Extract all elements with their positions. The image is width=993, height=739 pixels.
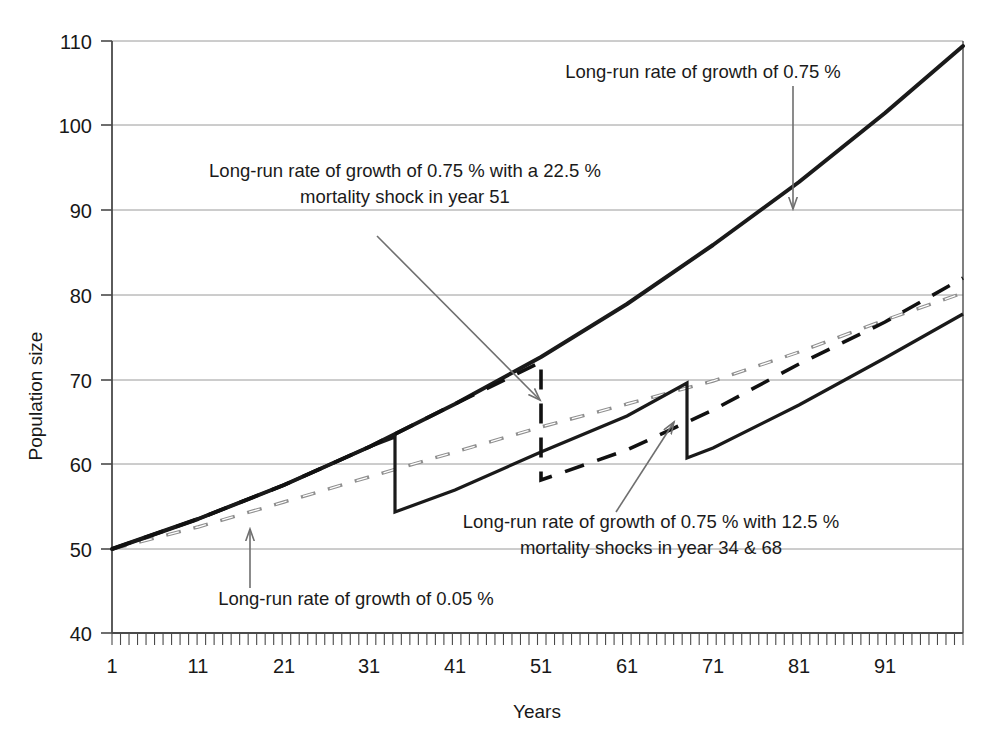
x-tick-label-51: 51 (530, 655, 552, 677)
y-tick-label-60: 60 (70, 454, 92, 476)
annotation-shock-34-68-line2: mortality shocks in year 34 & 68 (520, 537, 782, 558)
population-growth-line-chart: 110 100 90 80 70 60 50 40 1 11 21 31 41 … (0, 0, 993, 739)
x-axis-minor-ticks (112, 633, 963, 645)
y-tick-label-80: 80 (70, 285, 92, 307)
y-tick-label-100: 100 (59, 115, 92, 137)
annotation-shock-51-line1: Long-run rate of growth of 0.75 % with a… (209, 160, 601, 181)
x-tick-label-1: 1 (106, 655, 117, 677)
y-tick-label-50: 50 (70, 539, 92, 561)
x-tick-label-31: 31 (358, 655, 380, 677)
chart-figure: 110 100 90 80 70 60 50 40 1 11 21 31 41 … (0, 0, 993, 739)
x-tick-label-81: 81 (788, 655, 810, 677)
x-tick-label-71: 71 (702, 655, 724, 677)
x-tick-label-21: 21 (273, 655, 295, 677)
y-axis-title: Population size (25, 332, 46, 461)
x-axis-title: Years (513, 701, 561, 722)
y-axis-ticks (101, 41, 112, 633)
annotation-long-run-075: Long-run rate of growth of 0.75 % (565, 61, 841, 82)
annotation-long-run-005: Long-run rate of growth of 0.05 % (218, 588, 494, 609)
annotation-shock-51-line2: mortality shock in year 51 (300, 186, 510, 207)
y-tick-label-70: 70 (70, 370, 92, 392)
y-tick-label-90: 90 (70, 200, 92, 222)
y-tick-label-110: 110 (60, 31, 92, 53)
x-tick-label-11: 11 (188, 655, 209, 677)
x-tick-label-61: 61 (616, 655, 638, 677)
x-tick-label-91: 91 (874, 655, 896, 677)
x-tick-label-41: 41 (444, 655, 466, 677)
annotation-shock-34-68-line1: Long-run rate of growth of 0.75 % with 1… (463, 511, 839, 532)
y-tick-label-40: 40 (70, 623, 92, 645)
